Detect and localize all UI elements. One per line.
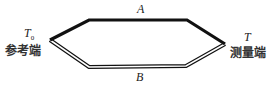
wire-a xyxy=(50,20,225,44)
wire-b-label: B xyxy=(136,71,143,83)
measuring-junction-label: 测量端 xyxy=(230,47,266,59)
measuring-junction-symbol: T xyxy=(244,31,251,43)
reference-junction-label: 参考端 xyxy=(5,45,41,57)
wire-b xyxy=(50,40,225,67)
wire-a-label: A xyxy=(137,3,144,15)
reference-junction-symbol: T0 xyxy=(24,27,34,42)
